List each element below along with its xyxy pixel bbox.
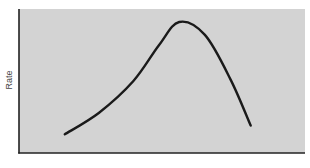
y-axis-label: Rate [4,70,14,89]
chart-svg [0,0,310,168]
rate-chart: Rate [0,0,310,168]
plot-area [19,9,305,153]
